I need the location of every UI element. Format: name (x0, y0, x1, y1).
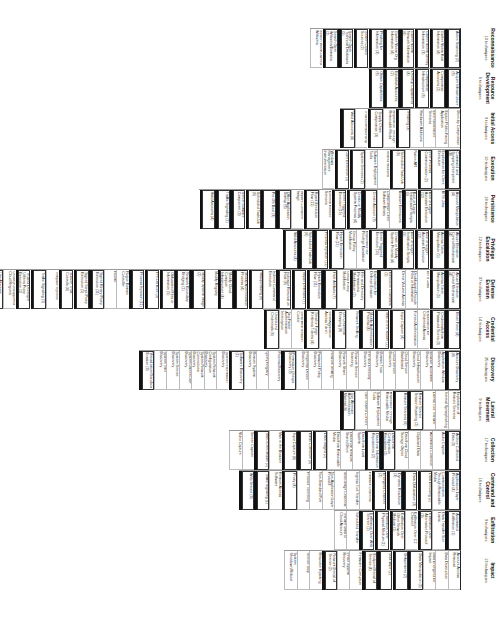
technique-cell[interactable]: Data from Information Repositories (2) (367, 431, 379, 470)
technique-cell[interactable]: Internal Spearphishing (435, 391, 447, 430)
subtechnique-expand-bar[interactable] (139, 351, 141, 390)
technique-cell[interactable]: Use Alternate Authentication Material (4… (0, 270, 3, 309)
technique-cell[interactable]: Password Policy Discovery (308, 351, 320, 390)
subtechnique-expand-bar[interactable] (233, 270, 235, 309)
technique-cell[interactable]: Taint Shared Content (355, 391, 367, 430)
technique-cell[interactable]: Scheduled Transfer (346, 511, 358, 550)
subtechnique-expand-bar[interactable] (445, 351, 447, 390)
subtechnique-expand-bar[interactable] (230, 190, 232, 229)
technique-cell[interactable]: Communication Through Removable Media (432, 471, 444, 510)
subtechnique-expand-bar[interactable] (31, 270, 33, 309)
subtechnique-expand-bar[interactable] (297, 431, 299, 470)
technique-cell[interactable]: Dynamic Resolution (3) (389, 471, 401, 510)
subtechnique-expand-bar[interactable] (430, 310, 432, 349)
technique-cell[interactable]: Transfer Data to Cloud Account (334, 511, 346, 550)
subtechnique-expand-bar[interactable] (399, 69, 401, 108)
technique-cell[interactable]: Group Policy Modification (337, 270, 349, 309)
subtechnique-expand-bar[interactable] (145, 270, 147, 309)
technique-cell[interactable]: Data from Network Shared Drive (340, 431, 352, 470)
subtechnique-expand-bar[interactable] (347, 190, 349, 229)
subtechnique-expand-bar[interactable] (322, 551, 324, 590)
subtechnique-expand-bar[interactable] (283, 230, 285, 269)
subtechnique-expand-bar[interactable] (368, 109, 370, 148)
technique-cell[interactable]: Active Scanning (2) (448, 29, 460, 68)
technique-cell[interactable]: Hide Artifacts (7) (325, 270, 337, 309)
subtechnique-expand-bar[interactable] (307, 270, 309, 309)
technique-cell[interactable]: Implant Container Image (291, 190, 303, 229)
technique-cell[interactable]: Encrypted Channel (2) (374, 471, 386, 510)
subtechnique-expand-bar[interactable] (304, 310, 306, 349)
subtechnique-expand-bar[interactable] (354, 29, 356, 68)
technique-cell[interactable]: Direct Volume Access (392, 270, 404, 309)
subtechnique-expand-bar[interactable] (338, 29, 340, 68)
subtechnique-expand-bar[interactable] (445, 431, 447, 470)
technique-cell[interactable]: System Network Connections Discovery (191, 351, 203, 390)
subtechnique-expand-bar[interactable] (430, 230, 432, 269)
technique-cell[interactable]: Replication Through Removable Media (380, 391, 392, 430)
technique-cell[interactable]: Inter-Process Communication (2) (420, 150, 432, 189)
subtechnique-expand-bar[interactable] (292, 270, 294, 309)
subtechnique-expand-bar[interactable] (129, 270, 131, 309)
subtechnique-expand-bar[interactable] (408, 391, 410, 430)
technique-cell[interactable]: Query Registry (256, 351, 268, 390)
technique-cell[interactable]: Execution Guardrails (1) (380, 270, 392, 309)
technique-cell[interactable]: Input Capture (4) (284, 431, 296, 470)
technique-cell[interactable]: Signed Script Proxy Execution (1) (76, 270, 88, 309)
subtechnique-expand-bar[interactable] (418, 190, 420, 229)
technique-cell[interactable]: Proxy (4) (284, 471, 296, 510)
technique-cell[interactable]: Trusted Relationship (355, 109, 367, 148)
technique-cell[interactable]: Two-Factor Authentication Interception (279, 310, 291, 349)
technique-cell[interactable]: Exploitation for Defense Evasion (365, 270, 377, 309)
technique-cell[interactable]: Scheduled Task/Job (6) (392, 150, 404, 189)
technique-cell[interactable]: Gather Victim Org Information (4) (386, 29, 398, 68)
technique-cell[interactable]: Gather Victim Host Information (4) (432, 29, 444, 68)
technique-cell[interactable]: Compromise Client Software Binary (377, 190, 389, 229)
technique-cell[interactable]: Traffic Signaling (1) (218, 190, 230, 229)
subtechnique-expand-bar[interactable] (160, 270, 162, 309)
subtechnique-expand-bar[interactable] (415, 69, 417, 108)
technique-cell[interactable]: Modify Registry (205, 270, 217, 309)
technique-cell[interactable]: Compromise Infrastructure (6) (417, 69, 429, 108)
tactic-header[interactable]: Lateral Movement9 techniques (461, 390, 495, 430)
technique-cell[interactable]: Scheduled Task/Job (6) (248, 190, 260, 229)
technique-cell[interactable]: Data Transfer Size Limits (432, 511, 444, 550)
technique-cell[interactable]: Inhibit System Recovery (337, 551, 349, 590)
subtechnique-expand-bar[interactable] (408, 551, 410, 590)
technique-cell[interactable]: Remote Access Software (269, 471, 281, 510)
technique-cell[interactable]: Phishing for Information (3) (371, 29, 383, 68)
subtechnique-expand-bar[interactable] (445, 270, 447, 309)
technique-cell[interactable]: Network Sniffing (346, 310, 358, 349)
subtechnique-expand-bar[interactable] (190, 270, 192, 309)
technique-cell[interactable]: Firmware Corruption (349, 551, 361, 590)
technique-cell[interactable]: Input Capture (4) (392, 310, 404, 349)
technique-cell[interactable]: Rootkit (104, 270, 116, 309)
subtechnique-expand-bar[interactable] (445, 69, 447, 108)
technique-cell[interactable]: Software Deployment Tools (367, 391, 379, 430)
subtechnique-expand-bar[interactable] (74, 270, 76, 309)
subtechnique-expand-bar[interactable] (402, 471, 404, 510)
technique-cell[interactable]: Virtualization/Sandbox Evasion (3) (142, 351, 154, 390)
technique-cell[interactable]: Indicator Removal on Host (6) (279, 270, 291, 309)
subtechnique-expand-bar[interactable] (415, 29, 417, 68)
technique-cell[interactable]: Pre-OS Boot (3) (263, 190, 275, 229)
subtechnique-expand-bar[interactable] (393, 551, 395, 590)
subtechnique-expand-bar[interactable] (281, 351, 283, 390)
technique-cell[interactable]: Data from Removable Media (327, 431, 339, 470)
technique-cell[interactable]: Defacement (2) (395, 551, 407, 590)
technique-cell[interactable]: Abuse Elevation Control Mechanism (4) (448, 230, 460, 269)
technique-cell[interactable]: Software Deployment Tools (365, 150, 377, 189)
tactic-header[interactable]: Exfiltration9 techniques (461, 510, 495, 550)
subtechnique-expand-bar[interactable] (399, 230, 401, 269)
technique-cell[interactable]: Windows Management Instrumentation (322, 150, 334, 189)
technique-cell[interactable]: Non-Application Layer Protocol (322, 471, 334, 510)
technique-cell[interactable]: Traffic Signaling (1) (33, 270, 45, 309)
technique-cell[interactable]: Application Layer Protocol (4) (448, 471, 460, 510)
subtechnique-expand-bar[interactable] (359, 511, 361, 550)
technique-cell[interactable]: Event Triggered Execution (15) (371, 230, 383, 269)
technique-cell[interactable]: Exfiltration Over Physical Medium (1) (377, 511, 389, 550)
subtechnique-expand-bar[interactable] (393, 391, 395, 430)
technique-cell[interactable]: Data from Local System (352, 431, 364, 470)
technique-cell[interactable]: External Remote Services (423, 109, 435, 148)
tactic-header[interactable]: Impact13 techniques (461, 550, 495, 590)
subtechnique-expand-bar[interactable] (445, 471, 447, 510)
